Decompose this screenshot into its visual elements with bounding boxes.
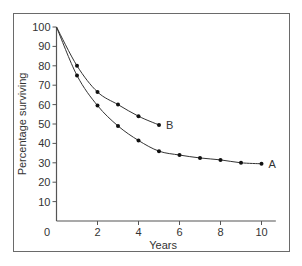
data-point bbox=[219, 158, 223, 162]
y-tick-label: 40 bbox=[38, 137, 50, 149]
data-point bbox=[157, 149, 161, 153]
y-tick-label: 80 bbox=[38, 60, 50, 72]
series-label-b: B bbox=[166, 119, 173, 131]
x-tick-label: 4 bbox=[135, 226, 141, 238]
data-point bbox=[198, 156, 202, 160]
data-point bbox=[96, 104, 100, 108]
series-line-b bbox=[57, 27, 160, 125]
series-line-a bbox=[57, 27, 262, 164]
y-tick-label: 10 bbox=[38, 196, 50, 208]
data-point bbox=[137, 138, 141, 142]
data-point bbox=[116, 124, 120, 128]
data-point bbox=[239, 161, 243, 165]
x-tick-label: 0 bbox=[44, 226, 50, 238]
y-tick-label: 20 bbox=[38, 176, 50, 188]
x-axis-label: Years bbox=[149, 239, 177, 251]
data-point bbox=[260, 162, 264, 166]
data-point bbox=[157, 123, 161, 127]
data-point bbox=[116, 103, 120, 107]
x-tick-label: 6 bbox=[176, 226, 182, 238]
x-tick-label: 8 bbox=[217, 226, 223, 238]
data-point bbox=[75, 64, 79, 68]
y-tick-label: 30 bbox=[38, 157, 50, 169]
y-axis-label: Percentage surviving bbox=[16, 73, 28, 176]
x-tick-label: 10 bbox=[255, 226, 267, 238]
y-tick-label: 100 bbox=[32, 21, 50, 33]
series-label-a: A bbox=[269, 158, 277, 170]
survival-chart: 1020304050607080901000246810YearsPercent… bbox=[0, 0, 302, 266]
y-tick-label: 70 bbox=[38, 79, 50, 91]
x-tick-label: 2 bbox=[94, 226, 100, 238]
data-point bbox=[178, 153, 182, 157]
y-tick-label: 60 bbox=[38, 99, 50, 111]
data-point bbox=[137, 114, 141, 118]
data-point bbox=[75, 74, 79, 78]
data-point bbox=[96, 90, 100, 94]
y-tick-label: 50 bbox=[38, 118, 50, 130]
y-tick-label: 90 bbox=[38, 40, 50, 52]
